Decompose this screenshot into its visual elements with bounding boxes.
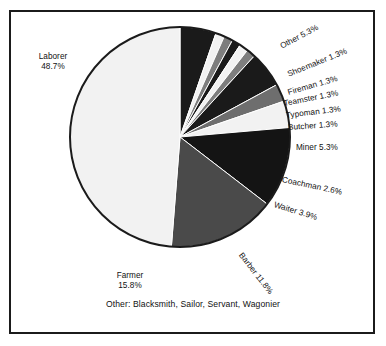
slice-label-farmer-name: Farmer [99, 271, 161, 281]
pie-slice-laborer [70, 27, 180, 247]
pie-slice-group [70, 27, 290, 247]
chart-caption: Other: Blacksmith, Sailor, Servant, Wago… [0, 299, 386, 309]
slice-label-farmer: Farmer 15.8% [99, 271, 161, 291]
slice-label-laborer-percent: 48.7% [22, 62, 84, 72]
pie-chart-figure: Laborer 48.7% Farmer 15.8% Other 5.3% Sh… [0, 0, 386, 346]
slice-label-laborer-name: Laborer [22, 52, 84, 62]
slice-label-miner: Miner 5.3% [296, 143, 338, 153]
slice-label-laborer: Laborer 48.7% [22, 52, 84, 72]
slice-label-farmer-percent: 15.8% [99, 281, 161, 291]
